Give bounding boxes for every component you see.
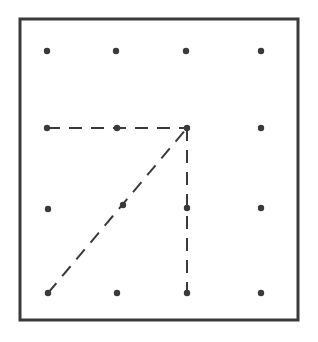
peg-dot [113,48,119,54]
peg-dot [114,290,120,296]
board-frame [20,19,298,320]
peg-dot [258,48,264,54]
peg-dot [45,290,51,296]
peg-dot [184,290,190,296]
peg-dot [44,48,50,54]
dashed-lines [47,128,187,293]
peg-dot [258,205,264,211]
peg-dot [258,290,264,296]
peg-dot [184,205,190,211]
peg-dot [45,206,51,212]
peg-dot [114,125,120,131]
diagonal-segment [48,128,187,293]
peg-dot [120,202,126,208]
peg-dot [44,125,50,131]
peg-dot [184,125,190,131]
peg-dot [183,48,189,54]
geoboard-diagram [0,0,318,342]
peg-dot [258,125,264,131]
